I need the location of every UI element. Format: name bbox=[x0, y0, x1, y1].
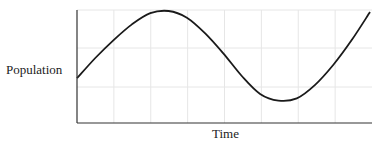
x-axis-label: Time bbox=[212, 126, 239, 142]
y-axis-label: Population bbox=[6, 62, 62, 78]
grid-lines bbox=[77, 10, 372, 123]
